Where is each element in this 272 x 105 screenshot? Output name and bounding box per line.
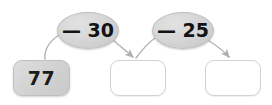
start-value-box: 77 <box>13 60 70 96</box>
arrow-answer1-to-minus25 <box>136 38 155 58</box>
operation-minus-25: — 25 <box>152 12 214 49</box>
operation-minus-30-label: — 30 <box>62 21 114 40</box>
answer-box-2[interactable] <box>205 60 261 96</box>
answer-box-1[interactable] <box>110 60 166 96</box>
arrow-minus25-to-answer2 <box>208 40 229 57</box>
operation-minus-30: — 30 <box>57 12 119 49</box>
start-value-label: 77 <box>28 69 55 88</box>
arrow-minus30-to-answer1 <box>113 40 133 57</box>
subtraction-chain-diagram: 77 — 30 — 25 <box>0 0 272 105</box>
arrow-box1-to-minus30 <box>45 35 59 59</box>
operation-minus-25-label: — 25 <box>157 21 209 40</box>
